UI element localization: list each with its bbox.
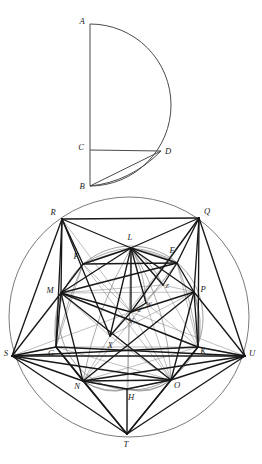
point-label-G: G (48, 348, 55, 358)
point-label-X: X (106, 340, 113, 350)
point-label-N: N (73, 381, 81, 391)
point-label-M: M (45, 285, 54, 295)
upper-semicircle-figure: A C D B (78, 16, 172, 191)
point-label-W: W (146, 300, 152, 307)
point-label-E: E (168, 245, 175, 255)
point-label-A: A (78, 16, 85, 26)
point-label-H: H (127, 392, 135, 402)
point-label-U: U (249, 348, 256, 358)
point-label-P: P (199, 284, 206, 294)
point-label-Z: Z (165, 282, 169, 289)
point-label-a: a (137, 306, 140, 313)
point-label-S: S (4, 348, 9, 358)
figure-canvas: A C D B (0, 0, 262, 464)
point-labels: R Q S U T L F E M P G K N O H V X W Z a (4, 206, 256, 449)
geometry-diagram: A C D B (0, 0, 262, 464)
arc-A-B (90, 24, 171, 186)
point-label-T: T (124, 439, 130, 449)
point-label-O: O (174, 380, 180, 390)
point-label-R: R (49, 207, 56, 217)
segment-B-D (90, 151, 161, 186)
point-label-B: B (79, 181, 85, 191)
point-label-L: L (127, 232, 133, 242)
point-label-D: D (164, 146, 172, 156)
point-label-Q: Q (204, 206, 211, 216)
segment-C-D (90, 150, 161, 151)
point-label-C: C (78, 142, 84, 152)
lower-circle-figure: R Q S U T L F E M P G K N O H V X W Z a (4, 197, 256, 449)
point-label-F: F (72, 251, 79, 261)
